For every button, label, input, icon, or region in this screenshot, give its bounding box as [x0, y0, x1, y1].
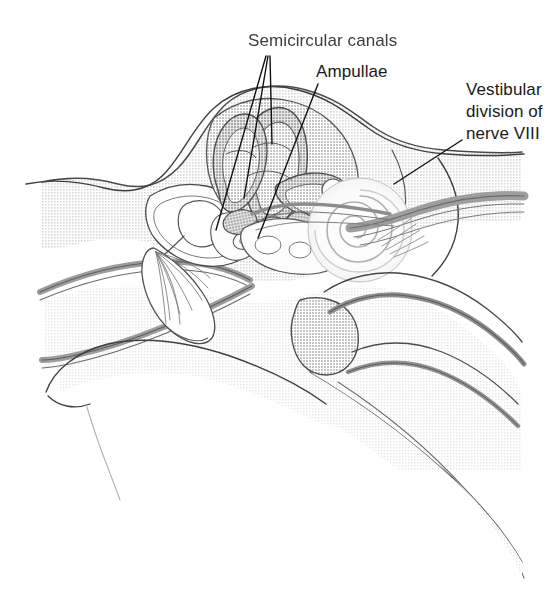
label-ampullae: Ampullae — [316, 62, 388, 81]
label-vestibular-line1: Vestibular — [466, 80, 542, 99]
label-vestibular-line3: nerve VIII — [466, 124, 540, 143]
anatomical-figure: Semicircular canals Ampullae Vestibular … — [0, 0, 558, 607]
label-ampullae-text: Ampullae — [316, 62, 388, 81]
label-vestibular-nerve: Vestibular division of nerve VIII — [466, 80, 543, 143]
label-vestibular-line2: division of — [466, 102, 543, 121]
label-semicircular-canals-text: Semicircular canals — [248, 31, 397, 50]
label-semicircular-canals: Semicircular canals — [248, 31, 397, 50]
inner-ear-diagram-svg: Semicircular canals Ampullae Vestibular … — [0, 0, 558, 607]
